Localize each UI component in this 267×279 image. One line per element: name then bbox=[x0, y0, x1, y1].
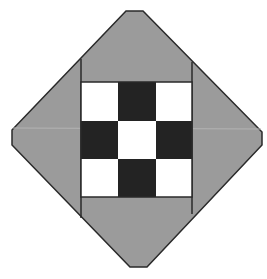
quilt-block-diagram: Quilt block - nine patch on point bbox=[0, 0, 267, 279]
patch-light-square bbox=[156, 159, 192, 197]
quilt-block-svg bbox=[0, 0, 267, 279]
patch-light-square bbox=[118, 121, 156, 159]
patch-light-square bbox=[81, 159, 118, 197]
nine-patch-grid bbox=[81, 82, 192, 197]
patch-dark-square bbox=[156, 121, 192, 159]
patch-light-square bbox=[81, 82, 118, 121]
patch-dark-square bbox=[81, 121, 118, 159]
patch-dark-square bbox=[118, 82, 156, 121]
patch-light-square bbox=[156, 82, 192, 121]
patch-dark-square bbox=[118, 159, 156, 197]
